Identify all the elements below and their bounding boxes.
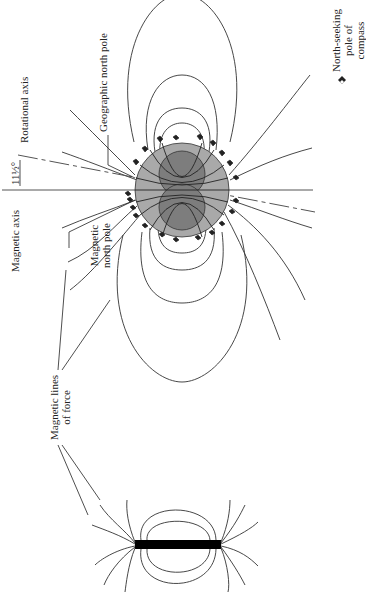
annotation-arrows <box>20 135 135 515</box>
lines-of-force-line2: of force <box>60 375 72 440</box>
legend-line1: North-seeking <box>330 9 342 72</box>
earth-core-lobes <box>159 151 205 230</box>
compass-legend-label: North-seeking pole of compass <box>330 9 366 72</box>
lines-of-force-line1: Magnetic lines <box>48 375 60 440</box>
legend-line2: pole of <box>342 9 354 72</box>
magnetic-north-pole-line2: north pole <box>100 223 112 268</box>
legend-line3: compass <box>354 9 366 72</box>
magnetic-north-pole-label: Magnetic north pole <box>88 223 112 268</box>
angle-label: 11½° <box>9 162 21 185</box>
magnetic-axis-label: Magnetic axis <box>9 210 21 272</box>
rotational-axis-label: Rotational axis <box>18 77 30 143</box>
magnetic-north-pole-line1: Magnetic <box>88 223 100 268</box>
compass-pole-legend-icon <box>338 76 346 84</box>
bar-magnet <box>135 540 221 549</box>
geographic-north-pole-label: Geographic north pole <box>97 33 109 132</box>
lines-of-force-label: Magnetic lines of force <box>48 375 72 440</box>
